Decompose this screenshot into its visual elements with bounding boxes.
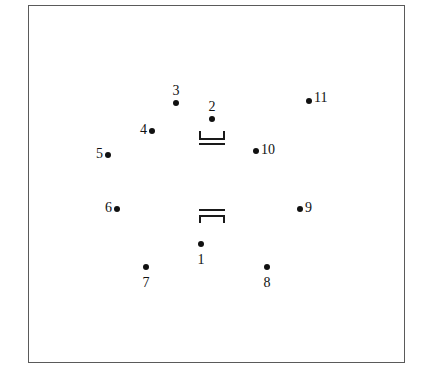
data-point-label-9: 9	[305, 201, 312, 215]
data-point-10[interactable]	[253, 148, 259, 154]
lower-bracket-symbol	[199, 209, 225, 225]
data-point-label-11: 11	[314, 91, 327, 105]
data-point-1[interactable]	[198, 241, 204, 247]
data-point-label-1: 1	[198, 253, 205, 267]
upper-bracket-base-bar	[199, 138, 225, 140]
data-point-5[interactable]	[105, 152, 111, 158]
data-point-label-3: 3	[173, 84, 180, 98]
data-point-label-2: 2	[209, 100, 216, 114]
data-point-8[interactable]	[264, 264, 270, 270]
data-point-4[interactable]	[149, 128, 155, 134]
lower-bracket-top-bar	[199, 215, 225, 217]
upper-bracket-symbol	[199, 131, 225, 147]
data-point-label-6: 6	[105, 201, 112, 215]
plot-frame: 1 2 3 4 5 6 7 8 9 10 11	[28, 5, 405, 363]
data-point-11[interactable]	[306, 98, 312, 104]
data-point-label-4: 4	[140, 123, 147, 137]
data-point-7[interactable]	[143, 264, 149, 270]
data-point-9[interactable]	[297, 206, 303, 212]
upper-bracket-under-bar	[199, 143, 225, 145]
lower-bracket-left-stem	[199, 215, 201, 223]
data-point-3[interactable]	[173, 100, 179, 106]
data-point-label-8: 8	[264, 276, 271, 290]
data-point-label-10: 10	[261, 143, 275, 157]
data-point-label-5: 5	[96, 147, 103, 161]
data-point-label-7: 7	[143, 276, 150, 290]
lower-bracket-right-stem	[223, 215, 225, 223]
figure-root: 1 2 3 4 5 6 7 8 9 10 11	[0, 0, 425, 383]
data-point-2[interactable]	[209, 116, 215, 122]
data-point-6[interactable]	[114, 206, 120, 212]
lower-bracket-over-bar	[199, 209, 225, 211]
